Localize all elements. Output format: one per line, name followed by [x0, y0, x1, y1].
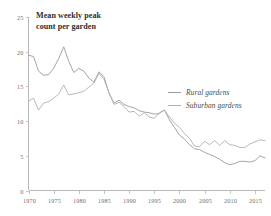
- y-tick-label: 20: [17, 49, 24, 56]
- chart-title-line-2: count per garden: [36, 21, 146, 32]
- x-tick-label: 1975: [48, 197, 61, 204]
- x-tick-label: 1995: [148, 197, 161, 204]
- legend-line-swatch-rural: [168, 92, 181, 93]
- x-tick-label: 1990: [123, 197, 136, 204]
- legend-line-swatch-suburban: [168, 105, 181, 106]
- y-tick-label: 15: [17, 83, 24, 90]
- legend-label-suburban: Suburban gardens: [186, 101, 242, 110]
- y-tick-label: 10: [17, 118, 24, 125]
- line-chart: 0510152025 19701975198019851990199520002…: [0, 0, 271, 216]
- chart-legend: Rural gardens Suburban gardens: [168, 87, 264, 113]
- y-tick-label: 25: [17, 14, 24, 21]
- x-tick-label: 1980: [73, 197, 86, 204]
- x-tick-label: 1970: [23, 197, 36, 204]
- legend-label-rural: Rural gardens: [186, 88, 230, 97]
- chart-title-line-1: Mean weekly peak: [36, 10, 146, 21]
- chart-title: Mean weekly peak count per garden: [36, 10, 146, 33]
- y-tick-label-group: 0510152025: [17, 14, 24, 195]
- x-tick-label: 2010: [224, 197, 237, 204]
- x-tick-label-group: 1970197519801985199019952000200520102015: [23, 197, 262, 204]
- legend-item-rural-gardens: Rural gardens: [168, 87, 264, 98]
- x-tick-label: 1985: [98, 197, 111, 204]
- x-tick-label: 2015: [249, 197, 262, 204]
- legend-item-suburban-gardens: Suburban gardens: [168, 100, 264, 111]
- y-tick-label: 0: [20, 188, 23, 195]
- x-tick-label: 2005: [199, 197, 212, 204]
- y-tick-label: 5: [20, 153, 23, 160]
- x-tick-label: 2000: [173, 197, 186, 204]
